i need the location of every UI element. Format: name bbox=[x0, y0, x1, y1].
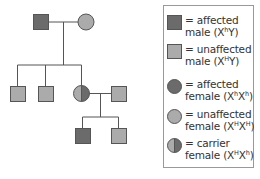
carrier-female-symbol bbox=[74, 86, 90, 102]
legend-genotype: male (XhY) bbox=[185, 26, 238, 38]
unaffected-male-symbol bbox=[112, 129, 127, 144]
unaffected-male-symbol bbox=[39, 87, 54, 102]
legend-genotype: male (XHY) bbox=[185, 55, 251, 67]
unaffected-male-symbol bbox=[11, 87, 26, 102]
legend-item-affected-male: = affected male (XhY) bbox=[167, 14, 238, 38]
legend: = affected male (XhY) = unaffected male … bbox=[163, 5, 254, 168]
legend-label: = unaffected bbox=[185, 108, 254, 120]
legend-genotype: female (XHXh) bbox=[185, 149, 254, 161]
legend-label: = unaffected bbox=[185, 43, 251, 55]
unaffected-male-icon bbox=[167, 44, 182, 59]
unaffected-female-icon bbox=[167, 109, 182, 124]
pedigree-lines bbox=[18, 22, 119, 128]
unaffected-female-symbol bbox=[78, 14, 94, 30]
affected-male-symbol bbox=[34, 15, 49, 30]
legend-item-carrier-female: = carrier female (XHXh) bbox=[167, 137, 254, 161]
pedigree-chart bbox=[0, 0, 160, 179]
unaffected-male-symbol bbox=[112, 87, 127, 102]
legend-label: = affected bbox=[185, 78, 253, 90]
legend-item-unaffected-female: = unaffected female (XHXH) bbox=[167, 108, 254, 132]
legend-item-unaffected-male: = unaffected male (XHY) bbox=[167, 43, 251, 67]
legend-genotype: female (XHXH) bbox=[185, 120, 254, 132]
legend-genotype: female (XhXh) bbox=[185, 90, 253, 102]
affected-male-symbol bbox=[76, 129, 91, 144]
carrier-female-icon bbox=[167, 138, 182, 153]
legend-label: = affected bbox=[185, 14, 238, 26]
affected-female-icon bbox=[167, 79, 182, 94]
affected-male-icon bbox=[167, 15, 182, 30]
legend-item-affected-female: = affected female (XhXh) bbox=[167, 78, 253, 102]
legend-label: = carrier bbox=[185, 137, 254, 149]
